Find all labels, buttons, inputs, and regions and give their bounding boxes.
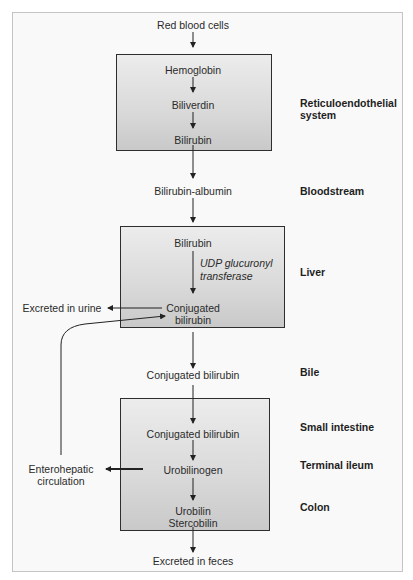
node-biliverdin: Biliverdin <box>172 99 215 111</box>
label-liver: Liver <box>300 266 325 278</box>
node-conjugated-bilirubin-line1: Conjugated <box>166 302 220 314</box>
node-urobilin: Urobilin <box>175 505 211 517</box>
label-colon: Colon <box>300 501 330 513</box>
node-liver-bilirubin: Bilirubin <box>174 237 211 249</box>
label-reticuloendothelial-line1: Reticuloendothelial <box>300 97 397 109</box>
label-bile: Bile <box>300 366 319 378</box>
node-conjugated-bilirubin-line2: bilirubin <box>175 314 211 326</box>
label-reticuloendothelial-line2: system <box>300 109 336 121</box>
enzyme-label-line2: transferase <box>200 270 253 282</box>
node-enterohepatic-line1: Enterohepatic <box>29 463 94 475</box>
enzyme-label-line1: UDP glucuronyl <box>200 257 273 269</box>
label-bloodstream: Bloodstream <box>300 185 364 197</box>
node-bilirubin: Bilirubin <box>174 134 211 146</box>
node-bile-conjugated-bilirubin: Conjugated bilirubin <box>147 369 240 381</box>
node-red-blood-cells: Red blood cells <box>157 19 229 31</box>
node-hemoglobin: Hemoglobin <box>165 64 221 76</box>
node-urobilinogen: Urobilinogen <box>164 464 223 476</box>
node-stercobilin: Stercobilin <box>168 517 217 529</box>
flow-arrows <box>0 0 413 580</box>
node-bilirubin-albumin: Bilirubin-albumin <box>154 185 232 197</box>
node-excreted-urine: Excreted in urine <box>23 302 102 314</box>
label-small-intestine: Small intestine <box>300 421 374 433</box>
node-excreted-feces: Excreted in feces <box>153 555 234 567</box>
node-intestine-conjugated-bilirubin: Conjugated bilirubin <box>147 428 240 440</box>
label-terminal-ileum: Terminal ileum <box>300 459 373 471</box>
node-enterohepatic-line2: circulation <box>37 475 84 487</box>
